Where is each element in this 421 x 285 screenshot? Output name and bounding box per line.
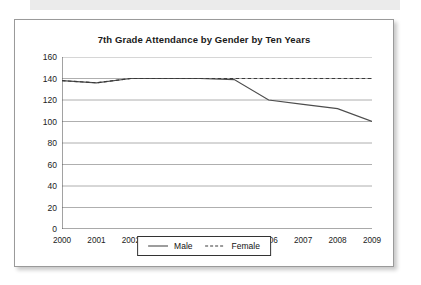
x-axis-tick-label: 2008 (328, 236, 346, 245)
x-axis-tick-label: 2007 (294, 236, 312, 245)
line-chart-svg (62, 57, 372, 229)
chart-legend: Male Female (137, 236, 271, 256)
y-axis-tick-label: 60 (48, 160, 57, 170)
legend-entry-female: Female (206, 241, 260, 251)
x-axis-tick-label: 2000 (53, 236, 71, 245)
female-line-swatch-icon (206, 243, 226, 249)
chart-card: 7th Grade Attendance by Gender by Ten Ye… (14, 19, 394, 267)
legend-label-male: Male (174, 241, 192, 251)
y-axis-tick-label: 100 (43, 117, 57, 127)
y-axis-tick-label: 0 (52, 224, 57, 234)
plot-area: 020406080100120140160 200020012002200320… (62, 57, 372, 229)
plot-wrapper: 020406080100120140160 200020012002200320… (62, 57, 372, 229)
legend-entry-male: Male (148, 241, 192, 251)
legend-label-female: Female (232, 241, 260, 251)
chart-title: 7th Grade Attendance by Gender by Ten Ye… (15, 34, 393, 45)
y-axis-tick-label: 120 (43, 95, 57, 105)
x-axis-tick-label: 2001 (87, 236, 105, 245)
x-axis-tick-label: 2009 (363, 236, 381, 245)
y-axis-tick-label: 140 (43, 74, 57, 84)
y-axis-tick-label: 40 (48, 181, 57, 191)
male-line-swatch-icon (148, 243, 168, 249)
scan-artifact-band (30, 0, 400, 10)
y-axis-tick-label: 160 (43, 52, 57, 62)
y-axis-tick-label: 20 (48, 203, 57, 213)
y-axis-tick-label: 80 (48, 138, 57, 148)
